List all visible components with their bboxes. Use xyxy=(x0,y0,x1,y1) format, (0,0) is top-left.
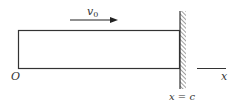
velocity-subscript: 0 xyxy=(93,10,98,19)
wall-hatching xyxy=(180,11,186,89)
x-axis-label: x xyxy=(221,70,228,83)
rod-rectangle xyxy=(19,31,180,69)
velocity-label: v0 xyxy=(87,5,98,19)
diagram-canvas: v0 O x x = c xyxy=(0,0,237,105)
arrow-head-icon xyxy=(110,17,118,23)
origin-label: O xyxy=(11,70,20,83)
wall-position-label: x = c xyxy=(169,91,195,102)
